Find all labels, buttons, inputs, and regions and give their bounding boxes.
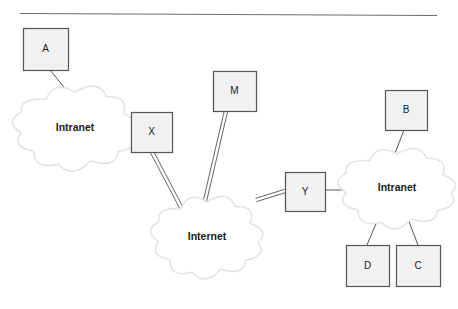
node-box-label: M bbox=[230, 85, 238, 96]
node-box-d[interactable]: D bbox=[347, 246, 390, 287]
top-horizontal-rule bbox=[20, 14, 437, 16]
node-box-label: C bbox=[414, 260, 421, 271]
link-node-m-to-internet bbox=[202, 111, 227, 206]
node-box-y[interactable]: Y bbox=[286, 173, 326, 212]
cloud-label: Internet bbox=[188, 230, 227, 242]
cloud-internet[interactable]: Internet bbox=[151, 196, 263, 279]
diagram-canvas: IntranetInternetIntranet AXMYBDC bbox=[0, 0, 458, 309]
link-node-x-to-internet bbox=[150, 151, 183, 210]
link-intranet-right-to-node-c bbox=[408, 219, 418, 245]
node-box-label: B bbox=[403, 104, 410, 115]
node-box-a[interactable]: A bbox=[24, 29, 69, 71]
node-box-label: X bbox=[148, 126, 155, 137]
node-box-label: Y bbox=[302, 186, 309, 197]
cloud-intranet-right[interactable]: Intranet bbox=[338, 149, 456, 229]
node-box-b[interactable]: B bbox=[386, 91, 428, 131]
node-box-label: D bbox=[364, 260, 371, 271]
cloud-intranet-left[interactable]: Intranet bbox=[13, 86, 137, 171]
node-box-x[interactable]: X bbox=[132, 113, 173, 153]
cloud-label: Intranet bbox=[56, 121, 95, 133]
node-box-m[interactable]: M bbox=[214, 72, 257, 112]
node-box-label: A bbox=[42, 43, 49, 54]
cloud-label: Intranet bbox=[378, 181, 417, 193]
link-internet-to-node-y bbox=[255, 189, 285, 201]
node-box-c[interactable]: C bbox=[397, 246, 441, 287]
network-diagram: IntranetInternetIntranet AXMYBDC bbox=[0, 0, 458, 309]
